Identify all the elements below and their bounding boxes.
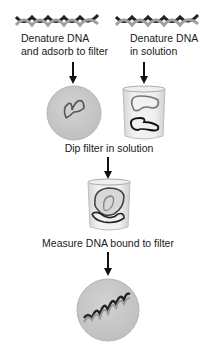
right-step-label-line2: in solution — [130, 45, 177, 58]
filter-with-hybridized-dna-icon — [77, 279, 139, 341]
final-step-label: Measure DNA bound to filter — [42, 237, 174, 250]
dna-double-helix-icon — [16, 15, 98, 25]
right-step-label-line1: Denature DNA — [130, 32, 198, 45]
beaker-with-filter-icon — [88, 179, 130, 230]
filter-with-single-strand-dna-icon — [47, 86, 101, 140]
merge-step-label: Dip filter in solution — [65, 142, 154, 155]
left-step-label-line1: Denature DNA — [21, 32, 89, 45]
left-step-label-line2: and adsorb to filter — [21, 45, 108, 58]
dna-double-helix-icon — [116, 15, 198, 25]
beaker-with-single-strand-dna-icon — [123, 86, 165, 139]
